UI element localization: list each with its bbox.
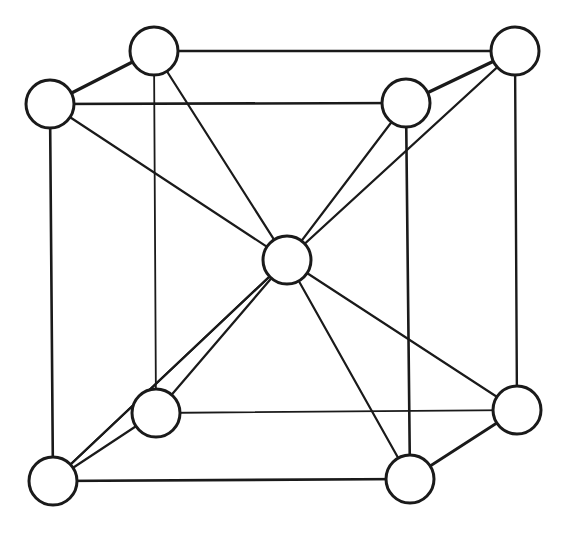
atom-front-top-left xyxy=(26,80,74,128)
atom-back-top-left xyxy=(130,27,178,75)
edge-front-top-right-to-front-bottom-right xyxy=(406,103,410,479)
atom-body-center xyxy=(263,236,311,284)
diagonal-body-center-to-front-bottom-left xyxy=(53,260,287,481)
edge-front-bottom-left-to-front-top-left xyxy=(50,104,53,481)
atom-front-top-right xyxy=(382,79,430,127)
diagonal-body-center-to-back-bottom-right xyxy=(287,260,517,410)
diagonal-back-top-left-to-body-center xyxy=(154,51,287,260)
atom-back-bottom-right xyxy=(493,386,541,434)
edge-front-bottom-right-to-front-bottom-left xyxy=(53,479,410,481)
edge-back-bottom-right-to-back-bottom-left xyxy=(156,410,517,413)
diagonal-body-center-to-back-bottom-left xyxy=(156,260,287,413)
diagonal-body-center-to-front-bottom-right xyxy=(287,260,410,479)
bcc-unit-cell-diagram xyxy=(0,0,562,533)
edge-back-bottom-left-to-back-top-left xyxy=(154,51,156,413)
lattice-canvas xyxy=(0,0,562,533)
diagonal-front-top-left-to-body-center xyxy=(50,104,287,260)
atom-front-bottom-right xyxy=(386,455,434,503)
atom-front-bottom-left xyxy=(29,457,77,505)
edge-front-top-left-to-front-top-right xyxy=(50,103,406,104)
atom-back-top-right xyxy=(491,27,539,75)
edge-back-top-right-to-back-bottom-right xyxy=(515,51,517,410)
diagonal-front-top-right-to-body-center xyxy=(287,103,406,260)
atom-back-bottom-left xyxy=(132,389,180,437)
